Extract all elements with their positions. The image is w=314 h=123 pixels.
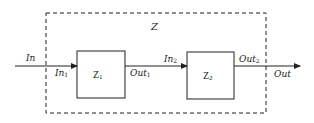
signal-out-text: Out [274, 69, 291, 79]
signal-out2-subscript: 2 [256, 57, 260, 64]
signal-in2-label: In2 [164, 55, 177, 64]
signal-out1-text: Out [130, 68, 147, 78]
signal-in2-text: In [164, 54, 173, 64]
signal-in-label: In [26, 54, 35, 63]
outer-block-label-text: Z [151, 21, 158, 32]
signal-out1-subscript: 1 [147, 71, 151, 78]
signal-out-label: Out [274, 70, 291, 79]
signal-in-text: In [26, 53, 35, 63]
signal-out2-text: Out [239, 54, 256, 64]
block-z2-label: Z2 [203, 71, 213, 82]
block-z1-subscript: 1 [99, 73, 103, 81]
outer-block-label: Z [151, 22, 158, 32]
block-diagram [0, 0, 314, 123]
signal-out1-label: Out1 [130, 69, 151, 78]
signal-out2-label: Out2 [239, 55, 260, 64]
signal-in2-subscript: 2 [173, 57, 177, 64]
signal-in1-label: In1 [55, 69, 68, 78]
block-z2-subscript: 2 [209, 74, 213, 82]
signal-in1-subscript: 1 [64, 71, 68, 78]
block-z1-label: Z1 [93, 70, 103, 81]
signal-in1-text: In [55, 68, 64, 78]
